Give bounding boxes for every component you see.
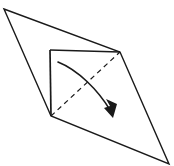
origami-fold-figure [0, 0, 174, 166]
inner-panel-top-edge [50, 50, 120, 52]
figure-canvas [0, 0, 174, 166]
inner-panel-left-edge [50, 50, 51, 116]
outer-sheet-outline [4, 9, 169, 164]
fold-arrow-head-icon [104, 99, 117, 118]
